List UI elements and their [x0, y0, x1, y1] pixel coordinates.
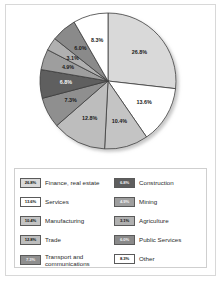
legend-item-label: Manufacturing [45, 217, 84, 224]
legend-swatch-value: 13.6% [20, 197, 41, 207]
pie-slice-label: 6.8% [59, 79, 71, 85]
legend-swatch-value: 6.8% [114, 178, 135, 188]
legend-item[interactable]: 6.8%Construction [114, 174, 208, 192]
legend-item-label: Mining [139, 198, 157, 205]
legend-swatch-value: 4.9% [114, 197, 135, 207]
pie-slice-label: 13.6% [136, 99, 151, 105]
legend-item-label: Public Services [139, 236, 181, 243]
legend-column-right: 6.8%Construction4.9%Mining3.1%Agricultur… [114, 174, 208, 269]
legend-swatch-value: 3.1% [114, 216, 135, 226]
legend-item-label: Other [139, 255, 154, 262]
pie-slice-label: 7.3% [64, 97, 76, 103]
legend-swatch-value: 8.3% [114, 254, 135, 264]
legend-item[interactable]: 26.8%Finance, real estate [20, 174, 114, 192]
legend-item[interactable]: 10.4%Manufacturing [20, 212, 114, 230]
legend: 26.8%Finance, real estate13.6%Services10… [14, 168, 207, 268]
figure-frame: 26.8%13.6%10.4%12.8%7.3%6.8%4.9%3.1%6.0%… [5, 4, 216, 276]
pie-slice-label: 8.3% [90, 37, 102, 43]
legend-swatch-value: 12.8% [20, 235, 41, 245]
legend-item[interactable]: 3.1%Agriculture [114, 212, 208, 230]
pie-slice-label: 6.0% [74, 45, 86, 51]
pie-chart-area: 26.8%13.6%10.4%12.8%7.3%6.8%4.9%3.1%6.0%… [6, 5, 215, 163]
legend-item-label: Construction [139, 179, 174, 186]
pie-slice-label: 10.4% [111, 118, 126, 124]
legend-item[interactable]: 13.6%Services [20, 193, 114, 211]
legend-item[interactable]: 6.0%Public Services [114, 231, 208, 249]
legend-item-label: Trade [45, 236, 61, 243]
pie-chart: 26.8%13.6%10.4%12.8%7.3%6.8%4.9%3.1%6.0%… [22, 9, 200, 161]
legend-item-label: Services [45, 198, 69, 205]
pie-slice-label: 3.1% [66, 55, 78, 61]
legend-swatch-value: 10.4% [20, 216, 41, 226]
legend-item-label: Finance, real estate [45, 179, 99, 186]
legend-item[interactable]: 4.9%Mining [114, 193, 208, 211]
pie-slice-label: 26.8% [131, 49, 146, 55]
legend-item[interactable]: 8.3%Other [114, 250, 208, 268]
legend-item[interactable]: 7.3%Transport and communications [20, 250, 114, 270]
pie-slice-label: 12.8% [81, 115, 96, 121]
legend-item[interactable]: 12.8%Trade [20, 231, 114, 249]
legend-item-label: Agriculture [139, 217, 169, 224]
legend-swatch-value: 6.0% [114, 235, 135, 245]
legend-column-left: 26.8%Finance, real estate13.6%Services10… [20, 174, 114, 271]
legend-swatch-value: 7.3% [20, 255, 41, 265]
legend-item-label: Transport and communications [45, 253, 90, 267]
pie-slice-label: 4.9% [61, 64, 73, 70]
legend-swatch-value: 26.8% [20, 178, 41, 188]
